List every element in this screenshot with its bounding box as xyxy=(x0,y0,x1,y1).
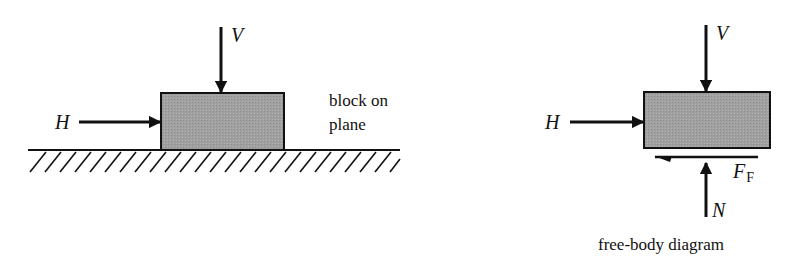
right-panel-free-body-diagram: V H FF N free-body diagram xyxy=(544,22,770,254)
left-panel-block-on-plane: V H block on plane xyxy=(28,24,400,172)
block xyxy=(161,93,284,150)
fbd-horizontal-force-label: H xyxy=(544,111,561,133)
friction-force-label: FF xyxy=(732,160,754,185)
block-on-plane-caption-line1: block on xyxy=(329,91,389,110)
block-on-plane-caption-line2: plane xyxy=(329,115,366,134)
ground-plane xyxy=(28,150,400,172)
normal-force-label: N xyxy=(711,199,727,221)
free-body-block xyxy=(644,92,770,148)
horizontal-force-label: H xyxy=(54,111,71,133)
vertical-force-label: V xyxy=(231,24,246,46)
free-body-diagram-caption: free-body diagram xyxy=(598,235,724,254)
fbd-vertical-force-label: V xyxy=(716,22,731,44)
block-on-plane-figure: V H block on plane V H FF N free-body di… xyxy=(0,0,795,270)
